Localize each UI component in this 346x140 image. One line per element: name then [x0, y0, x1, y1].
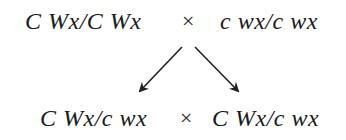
cross-diagram: C Wx/C Wx × c wx/c wx C Wx/c wx × C Wx/c…	[0, 0, 346, 140]
offspring-left-genotype: C Wx/c wx	[40, 106, 147, 130]
cross-operator-bottom: ×	[180, 106, 192, 130]
arrow-down-left-icon	[140, 47, 182, 91]
offspring-right-genotype: C Wx/c wx	[212, 106, 319, 130]
arrow-down-right-icon	[195, 47, 238, 91]
